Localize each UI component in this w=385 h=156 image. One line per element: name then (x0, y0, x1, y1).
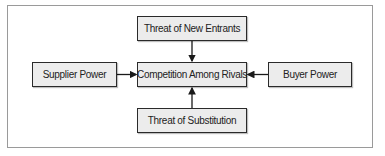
node-threat-of-new-entrants: Threat of New Entrants (137, 16, 247, 41)
node-buyer-power: Buyer Power (268, 62, 352, 87)
node-threat-of-substitution: Threat of Substitution (137, 108, 247, 133)
node-competition-among-rivals: Competition Among Rivals (137, 62, 247, 87)
node-supplier-power: Supplier Power (32, 62, 117, 87)
